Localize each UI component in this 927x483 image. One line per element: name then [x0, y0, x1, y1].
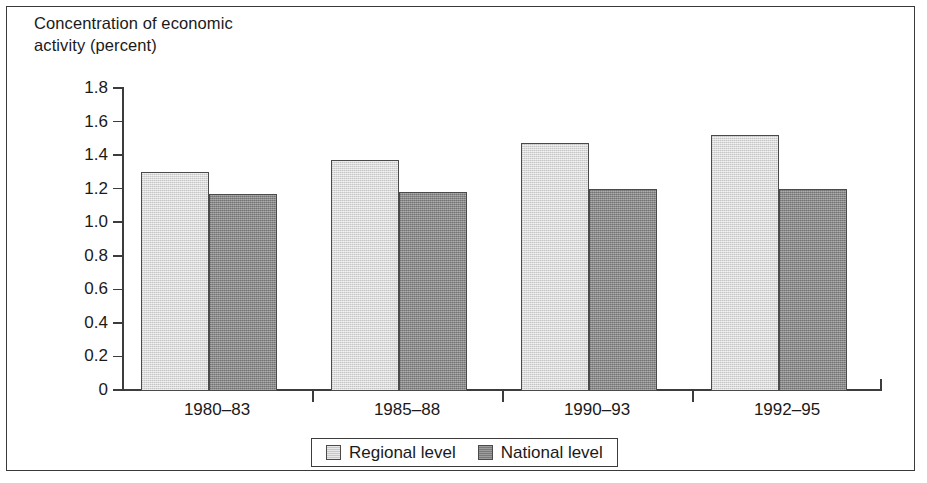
y-axis-tick-label: 1.6 — [56, 112, 108, 132]
legend-swatch-regional-icon — [326, 445, 341, 460]
y-axis-tick-label: 0.8 — [56, 246, 108, 266]
y-axis-tick — [113, 221, 123, 223]
x-axis-category-label: 1985–88 — [374, 400, 440, 420]
bar-national — [779, 189, 847, 391]
x-axis-category-label: 1980–83 — [184, 400, 250, 420]
y-axis-line — [122, 87, 124, 391]
x-axis-end-tick — [880, 379, 882, 390]
legend-swatch-national-icon — [478, 445, 493, 460]
legend-label-national: National level — [501, 443, 603, 463]
figure-container: Concentration of economic activity (perc… — [0, 0, 927, 483]
bar-national — [589, 189, 657, 391]
y-axis-tick — [113, 356, 123, 358]
x-axis-category-label: 1990–93 — [564, 400, 630, 420]
y-axis-tick-label: 0 — [56, 380, 108, 400]
x-axis-tick — [502, 391, 504, 402]
chart-legend: Regional level National level — [311, 438, 618, 467]
y-axis-tick-label: 0.2 — [56, 346, 108, 366]
y-axis-tick — [113, 87, 123, 89]
bar-regional — [521, 143, 589, 391]
legend-label-regional: Regional level — [349, 443, 456, 463]
bar-regional — [331, 160, 399, 391]
y-axis-tick — [113, 121, 123, 123]
y-axis-tick-label: 0.4 — [56, 313, 108, 333]
x-axis-tick — [312, 391, 314, 402]
bar-regional — [141, 172, 209, 391]
y-axis-tick-label: 1.0 — [56, 212, 108, 232]
bar-regional — [711, 135, 779, 391]
x-axis-tick — [692, 391, 694, 402]
bar-national — [399, 192, 467, 391]
y-axis-tick — [113, 389, 123, 391]
legend-item-regional: Regional level — [326, 443, 456, 463]
y-axis-tick — [113, 188, 123, 190]
y-axis-tick — [113, 255, 123, 257]
y-axis-tick-label: 1.4 — [56, 145, 108, 165]
x-axis-category-label: 1992–95 — [754, 400, 820, 420]
y-axis-tick — [113, 322, 123, 324]
y-axis-tick — [113, 154, 123, 156]
plot-area: 00.20.40.60.81.01.21.41.61.81980–831985–… — [0, 0, 927, 483]
y-axis-tick-label: 0.6 — [56, 279, 108, 299]
legend-item-national: National level — [478, 443, 603, 463]
bar-national — [209, 194, 277, 391]
y-axis-tick — [113, 289, 123, 291]
y-axis-tick-label: 1.8 — [56, 78, 108, 98]
y-axis-tick-label: 1.2 — [56, 179, 108, 199]
